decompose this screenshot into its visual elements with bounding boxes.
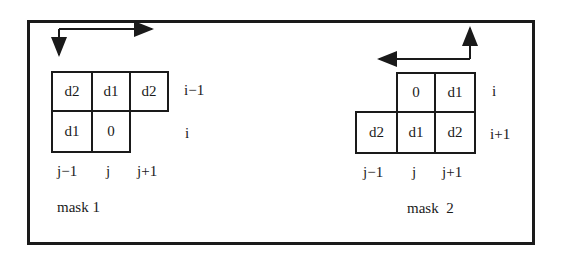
mask1-col-label: j+1 — [137, 163, 157, 180]
mask2-row-label: i+1 — [490, 126, 510, 143]
mask2-cell: d2 — [355, 111, 398, 154]
mask1-cell: d2 — [129, 71, 169, 112]
mask2-col-label: j−1 — [363, 164, 383, 181]
mask2-cell: d2 — [434, 111, 476, 154]
mask2-arrow-icon — [379, 28, 470, 59]
mask2-cell: d1 — [434, 72, 476, 113]
mask2-cell: d1 — [396, 111, 436, 154]
mask1-col-label: j — [106, 163, 110, 180]
mask1-cell: d1 — [91, 71, 131, 112]
mask1-cell: d2 — [51, 71, 93, 112]
mask2-col-label: j — [412, 164, 416, 181]
mask2-col-label: j+1 — [442, 164, 462, 181]
mask1-cell: d1 — [51, 110, 93, 153]
mask1-title: mask 1 — [57, 199, 100, 216]
mask2-title: mask 2 — [407, 200, 454, 217]
mask1-row-label: i−1 — [184, 82, 204, 99]
mask2-cell: 0 — [396, 72, 436, 113]
mask2-row-label: i — [492, 83, 496, 100]
mask1-arrow-icon — [59, 29, 152, 55]
mask1-row-label: i — [185, 125, 189, 142]
mask1-col-label: j−1 — [57, 163, 77, 180]
mask1-cell: 0 — [91, 110, 131, 153]
